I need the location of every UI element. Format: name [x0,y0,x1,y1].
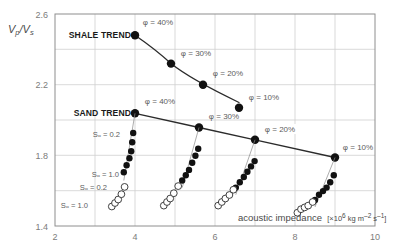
sat-pt-phi30-b6 [195,146,201,152]
sat-pt-phi30-o5 [175,183,182,190]
sat-pt-phi30-b2 [183,172,189,178]
y-axis-title: Vp/Vs [8,23,34,37]
sat-pt-phi10-b6 [331,172,337,178]
sand-trend-label: SAND TREND [74,108,131,118]
shale-point-phi30 [167,59,175,67]
x-tick-8: 8 [292,232,297,242]
shale-phi10-label: φ = 10% [249,93,279,102]
sat-pt-phi10-b5 [327,179,333,185]
sat-pt-phi40-b5 [129,139,135,145]
sat-pt-phi20-b4 [244,169,250,175]
sat-pt-phi20-b6 [251,158,257,164]
sat-pt-phi40-b6 [130,130,136,136]
y-tick-1-8: 1.8 [35,151,48,161]
x-tick-4: 4 [132,232,137,242]
sat-pt-phi20-b5 [248,163,254,169]
x-tick-2: 2 [52,232,57,242]
sat-pt-phi30-b4 [189,160,195,166]
x-tick-10: 10 [370,232,380,242]
y-tick-2-6: 2.6 [35,10,48,20]
sat-pt-phi20-o5 [230,186,237,193]
shale-trend-label: SHALE TREND [69,30,131,40]
so-label-mid-10: Sₒ = 1.0 [92,170,119,179]
so-label-open-02: Sₒ = 0.2 [80,183,107,192]
x-axis-ticks: 2 4 6 8 10 [52,232,380,242]
shale-phi30-label: φ = 30% [181,49,211,58]
sat-pt-phi40-b4 [128,148,134,154]
sand-phi20-label-correct: φ = 20% [265,125,295,134]
shale-phi20-label: φ = 20% [213,69,243,78]
y-tick-2-2: 2.2 [35,80,48,90]
sat-pt-phi40-o5 [121,184,128,191]
sand-phi30-label: φ = 30% [209,112,239,121]
x-axis-units-close: ] [384,214,386,223]
sat-pt-phi20-b2 [237,179,243,185]
rock-physics-crossplot: 2.6 2.2 1.8 1.4 2 4 6 8 10 Vp/Vs acousti… [0,0,393,252]
sat-pt-phi30-b5 [192,153,198,159]
shale-point-phi20 [199,81,207,89]
y-axis-ticks: 2.6 2.2 1.8 1.4 [35,10,48,232]
sat-pt-phi30-b3 [186,167,192,173]
sat-pt-phi10-b4 [323,184,329,190]
so-label-open-10: Sₒ = 1.0 [61,201,88,210]
shale-phi40-label: φ = 40% [143,18,173,27]
shale-point-phi40 [131,31,139,39]
sat-pt-phi30-o4 [170,190,177,197]
figure-container: 2.6 2.2 1.8 1.4 2 4 6 8 10 Vp/Vs acousti… [0,0,393,252]
sat-pt-phi40-b1 [121,169,127,175]
sat-pt-phi20-b3 [241,174,247,180]
sat-pt-phi40-o4 [118,191,125,198]
sand-phi10-label: φ = 10% [343,143,373,152]
x-tick-6: 6 [212,232,217,242]
sat-pt-phi10-o5 [309,199,316,206]
x-axis-units-mid: kg m [346,214,364,223]
x-axis-units-open: [×10 [327,214,342,223]
sat-pt-phi40-b3 [126,155,132,161]
y-tick-1-4: 1.4 [35,222,48,232]
y-axis-title-s: s [30,28,34,37]
x-axis-title-text: acoustic impedance [238,212,322,223]
so-label-top-02: Sₒ = 0.2 [93,130,120,139]
sat-pt-phi40-b2 [123,162,129,168]
shale-point-phi10 [235,104,243,112]
sand-phi40-label: φ = 40% [145,97,175,106]
